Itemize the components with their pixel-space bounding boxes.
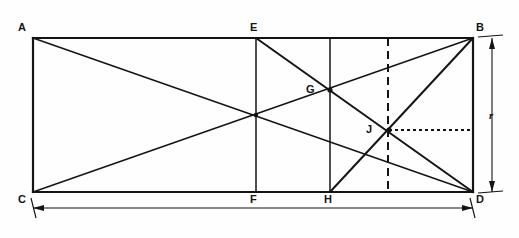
- vertex-label-A: A: [18, 22, 26, 33]
- vertex-label-E: E: [250, 22, 257, 33]
- center-intersection-marker: [254, 113, 258, 117]
- point-G-marker: [327, 87, 332, 92]
- width-arrow-left: [33, 205, 44, 211]
- height-arrow-top: [489, 38, 495, 49]
- vertex-label-J: J: [366, 124, 372, 135]
- height-arrow-bottom: [489, 181, 495, 192]
- width-arrow-right: [462, 205, 473, 211]
- height-ext-top: [478, 35, 503, 37]
- vertex-label-C: C: [18, 194, 26, 205]
- vertex-label-B: B: [476, 22, 484, 33]
- line-ED: [256, 38, 473, 192]
- diagonal-lines: [33, 38, 473, 192]
- vertex-label-H: H: [324, 194, 332, 205]
- vertex-label-D: D: [476, 194, 484, 205]
- vertex-label-G: G: [306, 84, 315, 95]
- line-HB: [330, 38, 473, 192]
- geometric-diagram: A B C D E F G H J r: [0, 0, 519, 238]
- diagram-canvas: [0, 0, 519, 238]
- construction-lines: [256, 38, 473, 192]
- interior-vertical-lines: [256, 38, 330, 192]
- vertex-label-F: F: [250, 194, 257, 205]
- dimension-label-r: r: [489, 110, 493, 121]
- point-J-marker: [386, 127, 391, 132]
